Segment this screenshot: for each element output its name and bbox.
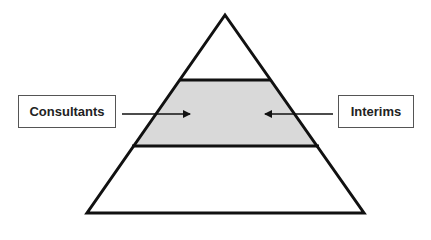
pyramid-middle-level: [133, 80, 318, 146]
interims-label-box: Interims: [338, 95, 414, 128]
interims-label: Interims: [351, 104, 402, 119]
consultants-label: Consultants: [29, 104, 104, 119]
consultants-label-box: Consultants: [18, 95, 116, 128]
